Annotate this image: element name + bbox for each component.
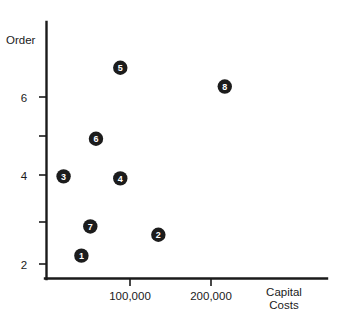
y-tick-label-6: 6 <box>21 92 27 104</box>
scatter-chart: Order 6 4 2 100,000 200,000 Capital Cost… <box>0 0 338 318</box>
data-point-label-6: 6 <box>93 134 98 144</box>
x-tick-label-200000: 200,000 <box>190 290 232 302</box>
data-point-label-8: 8 <box>222 82 227 92</box>
data-point-label-2: 2 <box>156 230 161 240</box>
data-point-label-3: 3 <box>61 172 66 182</box>
x-axis-title-line1: Capital <box>266 286 302 298</box>
data-point-label-4: 4 <box>118 174 123 184</box>
y-axis-ticks: 6 4 2 <box>21 92 46 271</box>
x-tick-label-100000: 100,000 <box>109 290 151 302</box>
data-point-group: 12345678 <box>56 61 232 263</box>
data-point-label-7: 7 <box>88 222 93 232</box>
x-axis-ticks: 100,000 200,000 <box>109 278 232 302</box>
y-tick-label-4: 4 <box>21 170 28 182</box>
plot-area: Order 6 4 2 100,000 200,000 Capital Cost… <box>0 0 338 318</box>
data-point-label-5: 5 <box>118 63 123 73</box>
data-point-label-1: 1 <box>79 251 84 261</box>
y-axis-title: Order <box>6 34 36 46</box>
y-tick-label-2: 2 <box>21 259 27 271</box>
x-axis-title-line2: Costs <box>269 299 299 311</box>
